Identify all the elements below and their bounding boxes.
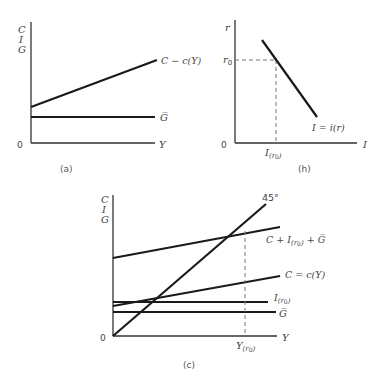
panel-c-aggregate-demand-line (113, 227, 280, 258)
panel-c-45-degree-line (113, 204, 266, 336)
panel-b-investment-line (262, 40, 317, 117)
panel-a-government-label: G̅ (160, 112, 168, 123)
panel-b-y-label: r (225, 22, 231, 33)
panel-b-origin: 0 (221, 140, 227, 150)
panel-c-yr0-label: Y(r0) (236, 340, 256, 353)
panel-c-caption: (c) (183, 360, 195, 370)
panel-b-caption: (h) (298, 164, 311, 174)
panel-c-aggregate-demand-label: C + I(r0) + G̅ (266, 234, 326, 247)
panel-a-x-label: Y (159, 139, 167, 150)
panel-c: C I G 0 Y 45° C + I(r0) + G̅ C = c(Y) I(… (100, 192, 326, 370)
panel-c-government-label: G̅ (279, 308, 287, 319)
panel-a-origin: 0 (17, 140, 23, 150)
panel-b-investment-label: I = i(r) (311, 122, 345, 133)
panel-c-investment-label: I(r0) (273, 292, 291, 305)
panel-b-x-label: I (362, 139, 368, 150)
panel-b: r 0 I r0 I = i(r) I(r0) (h) (221, 20, 368, 174)
panel-a-consumption-line (31, 60, 157, 107)
panel-c-origin: 0 (100, 333, 106, 343)
panel-c-x-label: Y (282, 332, 290, 343)
panel-c-y-label-g: G (101, 214, 109, 225)
panel-c-45-degree-label: 45° (262, 192, 279, 203)
macro-diagram: C I G 0 Y C − c(Y) G̅ (a) r 0 I r0 I = i… (0, 0, 382, 376)
panel-a: C I G 0 Y C − c(Y) G̅ (a) (17, 22, 202, 174)
panel-a-consumption-label: C − c(Y) (161, 55, 202, 66)
panel-c-consumption-label: C = c(Y) (285, 269, 326, 280)
panel-b-ir0-label: I(r0) (264, 147, 282, 160)
panel-b-r0-label: r0 (223, 54, 232, 67)
panel-a-y-label-g: G (18, 44, 26, 55)
panel-a-caption: (a) (60, 164, 73, 174)
